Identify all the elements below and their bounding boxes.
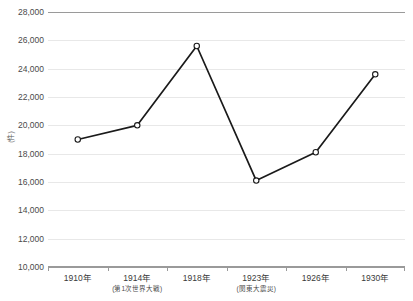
x-axis-label-annotation: (第1次世界大戦)	[112, 284, 162, 294]
x-axis-label-year: 1914年	[112, 273, 162, 284]
x-axis-label-year: 1923年	[237, 273, 276, 284]
x-axis-tick-label: 1923年(関東大震災)	[237, 273, 276, 294]
x-axis-tick	[167, 267, 168, 271]
y-axis-tick-label: 28,000	[0, 7, 44, 17]
x-axis-tick	[286, 267, 287, 271]
x-axis-tick	[227, 267, 228, 271]
x-axis-tick-label: 1930年	[361, 273, 389, 284]
y-axis-tick-label: 12,000	[0, 234, 44, 244]
plot-area	[48, 12, 405, 267]
line-chart: (件) 10,00012,00014,00016,00018,00020,000…	[0, 0, 413, 301]
x-axis-tick	[346, 267, 347, 271]
y-axis-tick-label: 24,000	[0, 64, 44, 74]
data-point-marker	[254, 178, 259, 183]
y-axis-tick-label: 20,000	[0, 120, 44, 130]
data-point-marker	[373, 72, 378, 77]
x-axis-label-year: 1918年	[183, 273, 211, 284]
x-axis-label-year: 1910年	[64, 273, 92, 284]
x-axis-tick-label: 1926年	[302, 273, 330, 284]
data-point-marker	[75, 137, 80, 142]
y-axis-tick-labels: 10,00012,00014,00016,00018,00020,00022,0…	[0, 12, 44, 267]
x-axis-tick-label: 1910年	[64, 273, 92, 284]
x-axis-tick-labels: 1910年1914年(第1次世界大戦)1918年1923年(関東大震災)1926…	[48, 273, 405, 301]
y-axis-tick-label: 26,000	[0, 35, 44, 45]
data-point-marker	[194, 43, 199, 48]
data-point-marker	[135, 123, 140, 128]
y-axis-tick-label: 16,000	[0, 177, 44, 187]
y-axis-tick-label: 18,000	[0, 149, 44, 159]
y-axis-tick-label: 10,000	[0, 262, 44, 272]
series-line	[78, 46, 376, 181]
series-line-group	[48, 12, 405, 267]
y-axis-tick-label: 14,000	[0, 205, 44, 215]
x-axis-tick-label: 1918年	[183, 273, 211, 284]
x-axis-tick-label: 1914年(第1次世界大戦)	[112, 273, 162, 294]
x-axis-tick	[48, 267, 49, 271]
x-axis-tick	[404, 267, 405, 271]
x-axis-label-annotation: (関東大震災)	[237, 284, 276, 294]
data-point-marker	[313, 150, 318, 155]
y-axis-tick-label: 22,000	[0, 92, 44, 102]
x-axis-label-year: 1930年	[361, 273, 389, 284]
x-axis-ticks	[48, 267, 405, 272]
x-axis-tick	[108, 267, 109, 271]
x-axis-label-year: 1926年	[302, 273, 330, 284]
